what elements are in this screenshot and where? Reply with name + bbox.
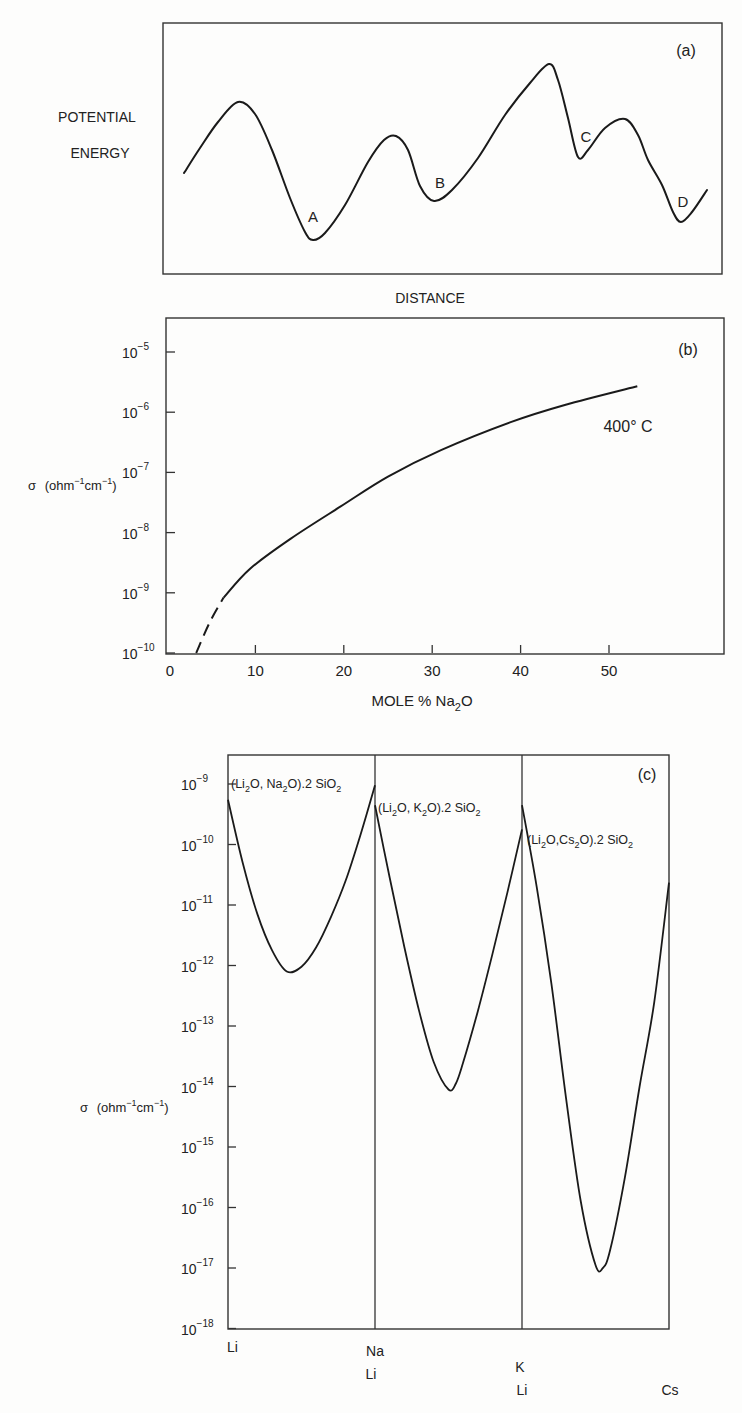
x-tick-label: 30 [424, 662, 441, 679]
temperature-annotation: 400° C [603, 418, 652, 435]
x-label-li: Li [227, 1339, 238, 1355]
series-labels: (Li2O, Na2O).2 SiO2(Li2O, K2O).2 SiO2(Li… [231, 777, 633, 850]
well-label-d: D [678, 193, 689, 210]
potential-energy-curve [184, 64, 707, 240]
panel-c-tag: (c) [638, 766, 657, 783]
x-label-na-li: Li [366, 1366, 377, 1382]
y-tick-label: 10−11 [181, 894, 213, 914]
conductivity-curve-1 [228, 785, 375, 972]
x-axis-label: DISTANCE [395, 290, 465, 306]
series-label-3: (Li2O,Cs2O).2 SiO2 [527, 833, 633, 850]
x-tick-label: 0 [166, 662, 174, 679]
x-tick-label: 10 [247, 662, 264, 679]
y-axis-ticks: 10−510−610−710−810−910−10 [122, 341, 175, 662]
y-tick-label: 10−13 [181, 1015, 214, 1035]
y-axis-label: σ (ohm−1cm−1) [28, 476, 117, 493]
x-label-k-li: Li [517, 1382, 528, 1398]
panel-a-frame [163, 23, 722, 274]
y-tick-label: 10−7 [122, 461, 149, 481]
series-label-1: (Li2O, Na2O).2 SiO2 [231, 777, 341, 794]
conductivity-curve [224, 386, 638, 597]
y-tick-label: 10−10 [122, 642, 155, 662]
y-tick-label: 10−10 [181, 834, 214, 854]
y-tick-label: 10−6 [122, 401, 149, 421]
y-axis-label: σ (ohm−1cm−1) [80, 1098, 169, 1115]
y-tick-label: 10−8 [122, 522, 149, 542]
y-tick-label: 10−12 [181, 955, 214, 975]
well-labels: ABCD [308, 128, 689, 225]
y-axis-label-line2: ENERGY [70, 145, 130, 161]
x-axis-label: MOLE % Na2O [371, 692, 472, 713]
x-label-na: Na [366, 1343, 384, 1359]
x-tick-label: 20 [335, 662, 352, 679]
y-tick-label: 10−17 [181, 1257, 214, 1277]
well-label-c: C [581, 128, 592, 145]
panel-a: ABCD (a) POTENTIAL ENERGY DISTANCE [58, 23, 722, 306]
panel-b: 10−510−610−710−810−910−10 01020304050 (b… [28, 318, 724, 713]
y-tick-label: 10−9 [122, 582, 149, 602]
panel-c: 10−910−1010−1110−1210−1310−1410−1510−161… [80, 755, 679, 1398]
well-label-a: A [308, 208, 318, 225]
conductivity-curve-3 [522, 805, 669, 1271]
x-tick-label: 40 [512, 662, 529, 679]
x-tick-label: 50 [601, 662, 618, 679]
panel-b-tag: (b) [678, 341, 698, 358]
y-tick-label: 10−9 [181, 773, 208, 793]
panel-b-frame [166, 318, 724, 654]
series-label-2: (Li2O, K2O).2 SiO2 [378, 801, 481, 818]
conductivity-curve-2 [375, 805, 522, 1090]
y-tick-label: 10−16 [181, 1197, 214, 1217]
y-tick-label: 10−18 [181, 1318, 214, 1338]
x-label-k: K [515, 1359, 525, 1375]
sigma-symbol: σ [28, 478, 36, 493]
y-tick-label: 10−5 [122, 341, 149, 361]
y-tick-label: 10−14 [181, 1076, 214, 1096]
panel-a-tag: (a) [676, 42, 696, 59]
y-axis-label-line1: POTENTIAL [58, 109, 136, 125]
x-label-cs: Cs [661, 1382, 678, 1398]
y-tick-label: 10−15 [181, 1136, 214, 1156]
conductivity-curve-dashed [196, 598, 223, 653]
mixed-alkali-curves [228, 785, 669, 1271]
well-label-b: B [435, 174, 445, 191]
x-axis-ticks: 01020304050 [166, 645, 618, 679]
